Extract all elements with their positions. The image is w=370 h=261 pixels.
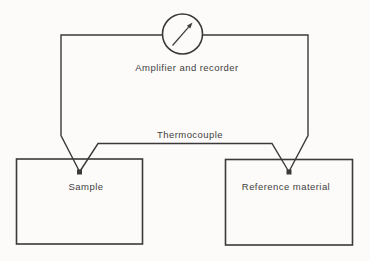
amplifier-recorder-label: Amplifier and recorder xyxy=(135,62,238,73)
sample-label: Sample xyxy=(69,181,104,192)
reference-junction-dot xyxy=(287,170,292,175)
left-circuit-wire xyxy=(61,35,163,172)
reference-material-label: Reference material xyxy=(242,181,330,192)
meter-gauge-icon xyxy=(163,14,203,54)
dta-apparatus-schematic: Amplifier and recorder Thermocouple Samp… xyxy=(0,0,370,261)
sample-junction-dot xyxy=(77,170,82,175)
thermocouple-label: Thermocouple xyxy=(157,129,223,140)
right-circuit-wire xyxy=(202,35,308,172)
thermocouple-wire xyxy=(80,144,290,173)
